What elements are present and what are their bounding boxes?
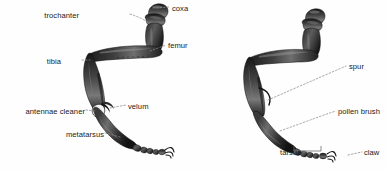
- tibia-segment-right: [244, 57, 265, 117]
- claw-right: [327, 152, 336, 162]
- leader-spur: [268, 66, 346, 100]
- label-trochanter: trochanter: [44, 11, 79, 20]
- label-femur: femur: [168, 41, 188, 50]
- claw-left: [165, 148, 174, 158]
- figure-canvas: trochanter coxa femur tibia velum antenn…: [0, 0, 387, 172]
- leader-pollen-brush: [280, 111, 336, 131]
- label-tibia: tibia: [47, 57, 61, 66]
- metatarsus-segment: [93, 107, 136, 149]
- label-claw: claw: [364, 148, 379, 157]
- femur-shaft-right: [247, 49, 318, 66]
- label-coxa: coxa: [172, 4, 188, 13]
- femur-shaft: [87, 46, 162, 62]
- leg-illustration-svg: [0, 0, 387, 172]
- tarsus-beads: [132, 144, 165, 155]
- right-leg-drawing: [244, 9, 336, 162]
- metatarsus-segment-right: [253, 111, 296, 153]
- label-antennae-cleaner: antennae cleaner: [26, 107, 86, 116]
- label-tarsus: tarsus: [280, 148, 301, 157]
- label-spur: spur: [349, 62, 364, 71]
- label-velum: velum: [128, 102, 149, 111]
- label-pollen-brush: pollen brush: [338, 107, 380, 116]
- label-metatarsus: metatarsus: [66, 130, 104, 139]
- leader-claw: [348, 152, 362, 155]
